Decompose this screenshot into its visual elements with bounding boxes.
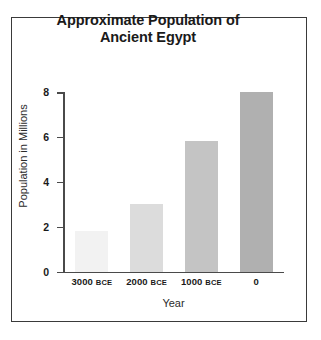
y-tick-label: 0 bbox=[43, 266, 49, 278]
y-tick-mark bbox=[57, 137, 63, 139]
y-axis-label: Population in Millions bbox=[17, 76, 29, 236]
x-tick-label-year: 2000 bbox=[126, 276, 148, 287]
x-tick-label-year: 1000 bbox=[181, 276, 203, 287]
plot-area: 02468 3000 BCE2000 BCE1000 BCE0 bbox=[52, 86, 284, 278]
y-tick-label: 8 bbox=[43, 86, 49, 98]
bar bbox=[130, 204, 163, 271]
x-tick-label: 0 bbox=[253, 276, 258, 287]
chart-title-line-1: Approximate Population of bbox=[18, 12, 278, 29]
bar bbox=[240, 92, 273, 272]
x-tick-label: 2000 BCE bbox=[126, 276, 167, 287]
x-tick-label: 3000 BCE bbox=[71, 276, 112, 287]
bar bbox=[185, 141, 218, 271]
x-axis-label: Year bbox=[63, 297, 284, 309]
chart-title: Approximate Population of Ancient Egypt bbox=[18, 12, 278, 46]
y-tick-label: 4 bbox=[43, 176, 49, 188]
y-tick-mark bbox=[57, 227, 63, 229]
x-tick-label-era: BCE bbox=[96, 278, 113, 287]
x-tick-label-year: 0 bbox=[253, 276, 258, 287]
y-tick-label: 2 bbox=[43, 221, 49, 233]
chart-title-line-2: Ancient Egypt bbox=[18, 29, 278, 46]
bar-series bbox=[65, 86, 284, 278]
x-tick-label-era: BCE bbox=[150, 278, 167, 287]
figure: Approximate Population of Ancient Egypt … bbox=[0, 0, 321, 340]
bar bbox=[75, 231, 108, 271]
x-tick-label-year: 3000 bbox=[71, 276, 93, 287]
y-tick-mark bbox=[57, 92, 63, 94]
y-tick-mark bbox=[57, 182, 63, 184]
x-tick-label: 1000 BCE bbox=[181, 276, 222, 287]
y-tick-mark bbox=[57, 272, 63, 274]
x-tick-label-era: BCE bbox=[205, 278, 222, 287]
y-tick-label: 6 bbox=[43, 131, 49, 143]
